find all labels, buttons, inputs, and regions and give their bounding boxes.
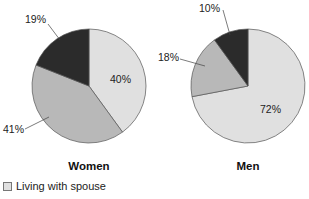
title-men: Men [237,160,260,172]
pie-men [191,29,305,143]
legend-swatch-living-with-spouse [3,182,12,191]
label-men-72: 72% [260,103,281,115]
title-women: Women [68,160,109,172]
label-men-18: 18% [158,51,179,63]
legend: Living with spouse [3,180,106,192]
legend-label-living-with-spouse: Living with spouse [16,180,106,192]
leader-line-men-10 [223,10,230,35]
label-women-41: 41% [3,123,24,135]
pie-women [32,29,146,143]
pie-charts: 19% 40% 41% 10% 18% 72% Women Men [0,0,309,199]
leader-line-women-19 [48,24,60,40]
label-women-40: 40% [110,73,131,85]
label-women-19: 19% [25,13,46,25]
label-men-10: 10% [199,2,220,14]
